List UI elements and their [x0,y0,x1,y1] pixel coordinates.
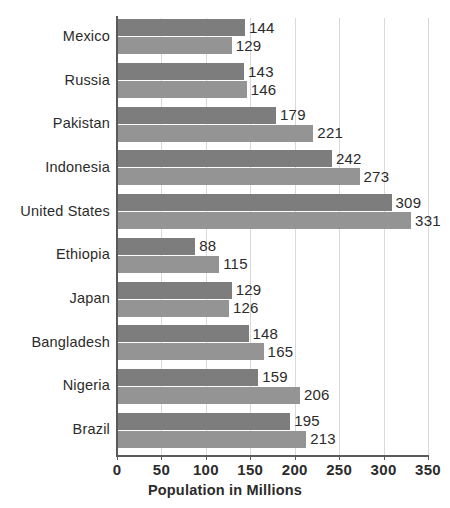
bar-value-japan-series-1: 129 [236,281,262,298]
bar-pakistan-series-1 [117,107,276,124]
category-label-ethiopia: Ethiopia [56,246,110,262]
x-tick-mark-0 [117,455,118,460]
x-tick-mark-50 [161,455,162,460]
bar-brazil-series-1 [117,413,290,430]
bar-united-states-series-1 [117,194,392,211]
bar-japan-series-1 [117,282,232,299]
category-label-bangladesh: Bangladesh [31,334,110,350]
bar-value-indonesia-series-2: 273 [364,168,390,185]
bar-russia-series-2 [117,81,247,98]
bar-bangladesh-series-2 [117,343,264,360]
bar-nigeria-series-1 [117,369,258,386]
x-axis-title: Population in Millions [0,482,450,498]
x-tick-label-150: 150 [237,461,263,478]
category-label-brazil: Brazil [73,421,110,437]
x-tick-label-200: 200 [282,461,308,478]
bar-value-russia-series-2: 146 [251,81,277,98]
bar-pakistan-series-2 [117,125,313,142]
bar-value-united-states-series-2: 331 [415,212,441,229]
bar-ethiopia-series-1 [117,238,195,255]
bar-value-russia-series-1: 143 [248,63,274,80]
x-tick-mark-150 [250,455,251,460]
bar-brazil-series-2 [117,431,306,448]
bar-value-brazil-series-1: 195 [294,412,320,429]
bar-indonesia-series-2 [117,168,360,185]
bar-value-indonesia-series-1: 242 [336,150,362,167]
bar-value-united-states-series-1: 309 [396,194,422,211]
x-tick-label-250: 250 [326,461,352,478]
x-axis-line [116,455,429,457]
population-bar-chart: MexicoRussiaPakistanIndonesiaUnited Stat… [0,0,450,508]
category-label-nigeria: Nigeria [63,377,110,393]
x-tick-mark-250 [339,455,340,460]
bar-value-ethiopia-series-1: 88 [199,237,216,254]
category-label-united-states: United States [20,203,110,219]
category-axis-labels: MexicoRussiaPakistanIndonesiaUnited Stat… [0,18,110,455]
bar-value-mexico-series-2: 129 [236,37,262,54]
bar-mexico-series-1 [117,19,245,36]
bar-japan-series-2 [117,300,229,317]
x-tick-label-100: 100 [193,461,219,478]
bar-bangladesh-series-1 [117,325,249,342]
y-axis-line [116,16,118,457]
bar-value-bangladesh-series-1: 148 [253,325,279,342]
x-tick-mark-300 [384,455,385,460]
x-tick-label-350: 350 [415,461,441,478]
x-tick-mark-100 [206,455,207,460]
bar-value-brazil-series-2: 213 [310,430,336,447]
gridline-250 [339,18,340,455]
gridline-300 [384,18,385,455]
bar-mexico-series-2 [117,37,232,54]
bar-value-nigeria-series-2: 206 [304,386,330,403]
bar-value-bangladesh-series-2: 165 [268,343,294,360]
x-tick-mark-350 [428,455,429,460]
bar-nigeria-series-2 [117,387,300,404]
x-tick-label-50: 50 [153,461,170,478]
category-label-russia: Russia [64,72,110,88]
bar-value-japan-series-2: 126 [233,299,259,316]
bar-ethiopia-series-2 [117,256,219,273]
bar-russia-series-1 [117,63,244,80]
bar-value-mexico-series-1: 144 [249,19,275,36]
bar-united-states-series-2 [117,212,411,229]
bar-value-nigeria-series-1: 159 [262,368,288,385]
category-label-mexico: Mexico [63,28,110,44]
bar-indonesia-series-1 [117,150,332,167]
x-tick-label-0: 0 [113,461,122,478]
gridline-350 [428,18,429,455]
bar-value-ethiopia-series-2: 115 [223,255,248,272]
category-label-indonesia: Indonesia [45,159,110,175]
plot-area: 1441291431461792212422733093318811512912… [117,18,428,455]
x-tick-label-300: 300 [371,461,397,478]
bar-value-pakistan-series-2: 221 [317,124,343,141]
bar-value-pakistan-series-1: 179 [280,106,306,123]
category-label-pakistan: Pakistan [53,115,110,131]
x-tick-mark-200 [295,455,296,460]
category-label-japan: Japan [69,290,110,306]
